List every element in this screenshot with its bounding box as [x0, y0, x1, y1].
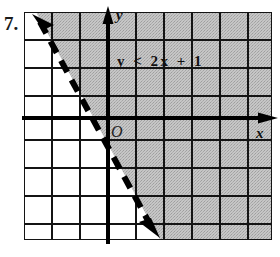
origin-label: O [111, 124, 123, 140]
inequality-graph-figure: 7. [0, 0, 280, 257]
y-axis-label: y [116, 8, 123, 23]
inequality-expression-label: y < 2x + 1 [117, 54, 204, 69]
x-axis-label: x [256, 126, 264, 141]
coordinate-plane-svg [0, 0, 280, 257]
problem-number-label: 7. [4, 14, 18, 33]
